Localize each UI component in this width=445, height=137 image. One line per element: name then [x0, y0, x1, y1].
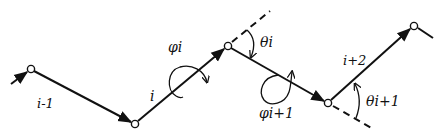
diagram-svg: i-1 i φi θi φi+1 i+2 θi+1 — [0, 0, 445, 137]
phi-i-rotation-tail — [176, 96, 183, 98]
bond-i — [138, 49, 224, 121]
label-phi-i-plus-1: φi+1 — [259, 105, 294, 121]
label-theta-i: θi — [260, 34, 273, 50]
incoming-bond — [11, 72, 27, 84]
atom-node — [27, 65, 34, 72]
atom-node — [324, 99, 331, 106]
phi-i-rotation-arrow — [169, 66, 207, 96]
chain-diagram: i-1 i φi θi φi+1 i+2 θi+1 — [0, 0, 445, 137]
label-bond-i-plus-2: i+2 — [343, 53, 366, 68]
outgoing-bond — [418, 28, 433, 38]
theta-i-arc — [247, 30, 254, 57]
phi-i-plus-1-rotation-arrow — [261, 72, 292, 104]
atom-node — [131, 120, 138, 127]
theta-i-plus-1-arc — [355, 84, 359, 118]
atom-node — [410, 22, 417, 29]
label-bond-i: i — [150, 88, 154, 104]
atom-node — [224, 42, 231, 49]
label-phi-i: φi — [168, 39, 182, 55]
extension-dashed-line-theta-i-plus-1 — [333, 106, 373, 129]
label-theta-i-plus-1: θi+1 — [366, 93, 400, 109]
label-bond-i-minus-1: i-1 — [37, 96, 54, 111]
